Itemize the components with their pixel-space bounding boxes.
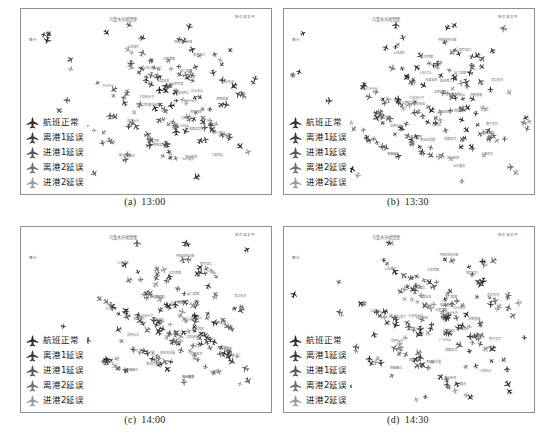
svg-text:广州白云: 广州白云 xyxy=(439,337,451,342)
airplane-icon xyxy=(25,131,40,145)
airplane-icon xyxy=(288,379,303,393)
svg-text:福州长乐: 福州长乐 xyxy=(448,91,461,96)
caption-c-time: 14:00 xyxy=(141,414,165,425)
legend-row-c-4: 进港2延误 xyxy=(25,393,84,408)
svg-text:郑州新郑: 郑州新郑 xyxy=(447,155,460,160)
map-corner-label-a: 哈尔滨太平 xyxy=(235,14,255,19)
legend-label-b-0: 航班正常 xyxy=(306,118,342,127)
legend-label-b-3: 离港2延误 xyxy=(306,163,347,172)
legend-row-d-0: 航班正常 xyxy=(288,333,347,348)
map-left-label-d: 喀什 xyxy=(292,255,300,260)
svg-text:兰州中川: 兰州中川 xyxy=(105,306,117,311)
legend-label-a-0: 航班正常 xyxy=(43,118,79,127)
svg-text:济南遥墙: 济南遥墙 xyxy=(214,320,227,325)
legend-label-d-1: 离港1延误 xyxy=(306,351,347,360)
airplane-icon xyxy=(25,334,40,348)
map-title-c: 乌鲁木齐地窝堡 xyxy=(109,234,138,241)
svg-text:武汉天河: 武汉天河 xyxy=(491,77,504,82)
svg-text:北京首都: 北京首都 xyxy=(163,56,176,61)
svg-text:南京禄口: 南京禄口 xyxy=(200,261,212,266)
svg-text:广州白云: 广州白云 xyxy=(177,123,189,128)
panel-a: 乌鲁木齐地窝堡 哈尔滨太平 喀什 呼和浩特白塔北京首都天津滨海大连周水子沈阳桃仙… xyxy=(20,8,272,195)
legend-label-a-3: 离港2延误 xyxy=(43,163,84,172)
svg-text:武汉天河: 武汉天河 xyxy=(222,79,235,84)
legend-row-c-0: 航班正常 xyxy=(25,333,84,348)
legend-row-d-4: 进港2延误 xyxy=(288,393,347,408)
svg-text:南京禄口: 南京禄口 xyxy=(459,47,471,52)
svg-text:拉萨贡嘎: 拉萨贡嘎 xyxy=(171,300,184,305)
airplane-icon xyxy=(25,394,40,408)
map-title-b: 乌鲁木齐地窝堡 xyxy=(372,16,401,23)
airplane-icon xyxy=(25,379,40,393)
airplane-icon xyxy=(288,334,303,348)
svg-text:成都双流: 成都双流 xyxy=(445,347,458,352)
place-label-group-a: 呼和浩特白塔北京首都天津滨海大连周水子沈阳桃仙济南遥墙青岛流亭郑州新郑西安咸阳兰… xyxy=(102,39,235,162)
svg-text:北京首都: 北京首都 xyxy=(421,54,434,59)
caption-a: (a)13:00 xyxy=(20,196,270,212)
svg-text:武汉天河: 武汉天河 xyxy=(234,293,247,298)
legend-row-b-1: 离港1延误 xyxy=(288,130,347,145)
legend-label-b-1: 离港1延误 xyxy=(306,133,347,142)
svg-text:贵阳龙洞堡: 贵阳龙洞堡 xyxy=(160,350,176,355)
legend-label-a-2: 进港1延误 xyxy=(43,148,84,157)
svg-text:济南遥墙: 济南遥墙 xyxy=(470,92,483,97)
svg-text:桂林两江: 桂林两江 xyxy=(177,90,190,95)
map-left-label-a: 喀什 xyxy=(29,37,37,42)
svg-text:成都双流: 成都双流 xyxy=(190,351,203,356)
svg-text:大连周水子: 大连周水子 xyxy=(139,94,155,99)
legend-row-b-0: 航班正常 xyxy=(288,115,347,130)
caption-d: (d)14:30 xyxy=(283,414,533,430)
svg-text:昆明长水: 昆明长水 xyxy=(127,332,140,337)
legend-label-d-0: 航班正常 xyxy=(306,336,342,345)
svg-text:贵阳龙洞堡: 贵阳龙洞堡 xyxy=(153,142,169,147)
legend-row-b-3: 离港2延误 xyxy=(288,160,347,175)
svg-text:福州长乐: 福州长乐 xyxy=(184,317,197,322)
airplane-icon xyxy=(25,146,40,160)
svg-text:成都双流: 成都双流 xyxy=(444,136,457,141)
svg-text:南宁吴圩: 南宁吴圩 xyxy=(213,130,226,135)
legend-row-d-2: 进港1延误 xyxy=(288,363,347,378)
svg-text:上海虹桥: 上海虹桥 xyxy=(482,130,495,135)
caption-c: (c)14:00 xyxy=(20,414,270,430)
svg-text:长沙黄花: 长沙黄花 xyxy=(453,163,466,168)
svg-text:上海浦东: 上海浦东 xyxy=(117,260,129,265)
svg-text:长沙黄花: 长沙黄花 xyxy=(454,381,467,386)
svg-text:沈阳桃仙: 沈阳桃仙 xyxy=(186,334,198,339)
svg-text:呼和浩特白塔: 呼和浩特白塔 xyxy=(176,253,195,258)
legend-row-d-3: 离港2延误 xyxy=(288,378,347,393)
legend-d: 航班正常离港1延误进港1延误离港2延误进港2延误 xyxy=(286,331,350,410)
svg-text:南宁吴圩: 南宁吴圩 xyxy=(486,121,499,126)
svg-text:上海浦东: 上海浦东 xyxy=(384,266,396,271)
airplane-icon xyxy=(288,146,303,160)
legend-row-b-4: 进港2延误 xyxy=(288,175,347,190)
map-title-a: 乌鲁木齐地窝堡 xyxy=(109,16,138,23)
svg-text:厦门高崎: 厦门高崎 xyxy=(187,291,200,296)
legend-row-a-1: 离港1延误 xyxy=(25,130,84,145)
svg-text:天津滨海: 天津滨海 xyxy=(425,77,438,82)
svg-text:上海浦东: 上海浦东 xyxy=(393,50,405,55)
svg-text:青岛流亭: 青岛流亭 xyxy=(409,357,421,362)
svg-text:呼和浩特白塔: 呼和浩特白塔 xyxy=(174,39,193,44)
caption-b: (b)13:30 xyxy=(283,196,533,212)
svg-text:三亚凤凰: 三亚凤凰 xyxy=(209,369,222,374)
svg-text:海口美兰: 海口美兰 xyxy=(133,316,145,321)
caption-a-label: (a) xyxy=(124,196,136,207)
legend-label-c-0: 航班正常 xyxy=(43,336,79,345)
legend-label-c-4: 进港2延误 xyxy=(43,396,84,405)
legend-label-c-1: 离港1延误 xyxy=(43,351,84,360)
svg-text:长沙黄花: 长沙黄花 xyxy=(182,374,195,379)
caption-b-label: (b) xyxy=(387,196,400,207)
svg-text:西安咸阳: 西安咸阳 xyxy=(454,108,466,113)
airplane-icon xyxy=(25,364,40,378)
map-title-d: 乌鲁木齐地窝堡 xyxy=(372,234,401,241)
caption-c-label: (c) xyxy=(124,414,136,425)
legend-label-d-2: 进港1延误 xyxy=(306,366,347,375)
airplane-icon xyxy=(288,394,303,408)
svg-text:三亚凤凰: 三亚凤凰 xyxy=(481,151,494,156)
place-label-group-d: 呼和浩特白塔北京首都天津滨海大连周水子沈阳桃仙济南遥墙青岛流亭郑州新郑西安咸阳兰… xyxy=(370,252,502,386)
svg-text:海口美兰: 海口美兰 xyxy=(138,102,150,107)
map-left-label-b: 喀什 xyxy=(292,37,300,42)
svg-text:天津滨海: 天津滨海 xyxy=(157,78,170,83)
legend-row-c-3: 离港2延误 xyxy=(25,378,84,393)
svg-text:海口美兰: 海口美兰 xyxy=(394,314,406,319)
